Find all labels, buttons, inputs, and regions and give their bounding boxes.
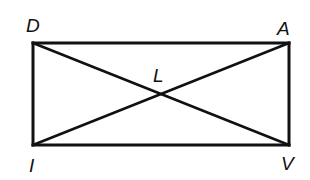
vertex-label-A: A	[276, 18, 290, 39]
vertex-label-I: I	[29, 155, 35, 176]
rectangle-diagram: D A L I V	[0, 0, 310, 180]
vertex-label-V: V	[281, 153, 296, 174]
vertex-label-D: D	[26, 15, 40, 36]
intersection-label-L: L	[153, 65, 164, 86]
